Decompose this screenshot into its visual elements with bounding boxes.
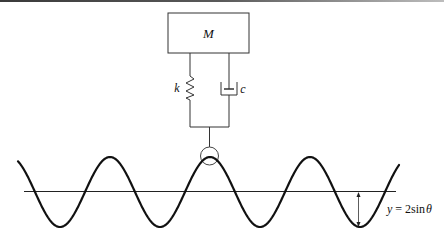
road-equation-label: y = 2sinθ — [386, 202, 432, 216]
damper-label: c — [240, 82, 246, 96]
spring: k — [174, 53, 194, 127]
amplitude-arrow — [357, 192, 361, 227]
mass-block: M — [168, 13, 249, 53]
spring-label: k — [174, 81, 180, 95]
damper: c — [221, 53, 246, 127]
mass-spring-damper-diagram: M k c y = 2sinθ — [0, 0, 444, 243]
mass-label: M — [202, 26, 215, 41]
wheel-linkage — [190, 127, 229, 165]
